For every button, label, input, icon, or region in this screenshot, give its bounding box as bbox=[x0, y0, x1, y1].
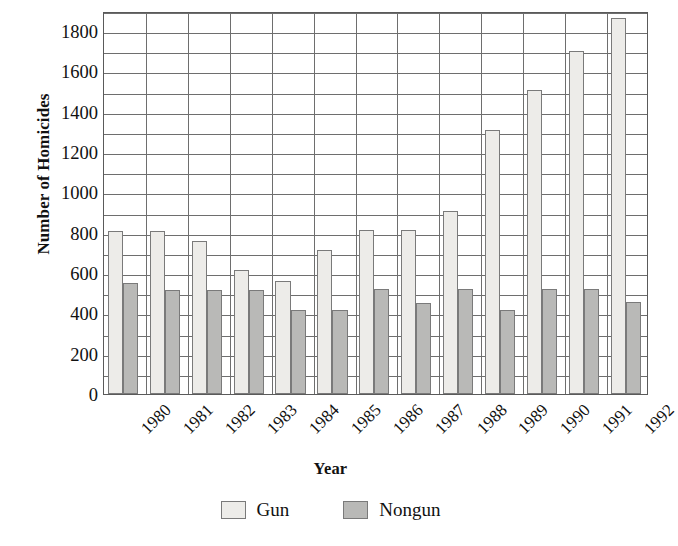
bar-gun-1981 bbox=[150, 231, 165, 394]
legend-entry-nongun: Nongun bbox=[343, 500, 440, 519]
x-tick-label-1984: 1984 bbox=[306, 401, 342, 437]
bar-gun-1992 bbox=[611, 18, 626, 394]
x-axis-tick-labels: 1980198119821983198419851986198719881989… bbox=[103, 395, 648, 453]
bar-nongun-1988 bbox=[458, 289, 473, 394]
bar-nongun-1985 bbox=[332, 310, 347, 394]
bar-nongun-1989 bbox=[500, 310, 515, 394]
bar-gun-1983 bbox=[234, 270, 249, 394]
bar-group-1985 bbox=[314, 13, 356, 394]
bar-nongun-1984 bbox=[291, 310, 306, 394]
bar-group-1983 bbox=[230, 13, 272, 394]
bar-nongun-1983 bbox=[249, 290, 264, 394]
bar-nongun-1982 bbox=[207, 290, 222, 394]
x-axis-title: Year bbox=[0, 459, 661, 479]
bar-nongun-1990 bbox=[542, 289, 557, 394]
y-tick-label: 1200 bbox=[18, 144, 98, 163]
bar-nongun-1987 bbox=[416, 303, 431, 394]
bar-group-1980 bbox=[104, 13, 146, 394]
y-tick-label: 1000 bbox=[18, 184, 98, 203]
bar-group-1982 bbox=[188, 13, 230, 394]
y-tick-label: 800 bbox=[18, 224, 98, 243]
x-tick-label-1986: 1986 bbox=[390, 401, 426, 437]
bar-group-1992 bbox=[607, 13, 649, 394]
bar-nongun-1992 bbox=[626, 302, 641, 394]
y-tick-label: 200 bbox=[18, 345, 98, 364]
y-axis-tick-labels: 020040060080010001200140016001800 bbox=[18, 12, 98, 395]
x-tick-label-1991: 1991 bbox=[599, 401, 635, 437]
x-tick-label-1983: 1983 bbox=[264, 401, 300, 437]
bar-nongun-1991 bbox=[584, 289, 599, 394]
bar-gun-1991 bbox=[569, 51, 584, 394]
bar-group-1984 bbox=[272, 13, 314, 394]
bar-gun-1987 bbox=[401, 230, 416, 394]
x-tick-label-1989: 1989 bbox=[515, 401, 551, 437]
bar-gun-1982 bbox=[192, 241, 207, 394]
bar-group-1989 bbox=[481, 13, 523, 394]
bar-nongun-1980 bbox=[123, 283, 138, 394]
bar-nongun-1981 bbox=[165, 290, 180, 394]
bar-gun-1980 bbox=[108, 231, 123, 394]
x-tick-label-1981: 1981 bbox=[180, 401, 216, 437]
legend-label-gun: Gun bbox=[257, 500, 290, 519]
x-tick-label-1992: 1992 bbox=[641, 401, 677, 437]
legend-swatch-gun bbox=[221, 501, 246, 519]
bar-group-1988 bbox=[439, 13, 481, 394]
plot-area bbox=[103, 12, 648, 395]
bar-gun-1989 bbox=[485, 130, 500, 394]
y-tick-label: 1800 bbox=[18, 23, 98, 42]
x-tick-label-1987: 1987 bbox=[432, 401, 468, 437]
chart-legend: GunNongun bbox=[0, 500, 661, 519]
legend-swatch-nongun bbox=[343, 501, 368, 519]
bar-group-1987 bbox=[397, 13, 439, 394]
x-tick-label-1985: 1985 bbox=[348, 401, 384, 437]
y-tick-label: 0 bbox=[18, 386, 98, 405]
bar-group-1986 bbox=[356, 13, 398, 394]
x-tick-label-1990: 1990 bbox=[557, 401, 593, 437]
bar-gun-1984 bbox=[275, 281, 290, 394]
y-tick-label: 400 bbox=[18, 305, 98, 324]
bar-nongun-1986 bbox=[374, 289, 389, 394]
legend-entry-gun: Gun bbox=[221, 500, 290, 519]
bar-group-1981 bbox=[146, 13, 188, 394]
bar-gun-1985 bbox=[317, 250, 332, 394]
y-tick-label: 1600 bbox=[18, 63, 98, 82]
x-tick-label-1982: 1982 bbox=[222, 401, 258, 437]
y-tick-label: 600 bbox=[18, 265, 98, 284]
bar-gun-1990 bbox=[527, 90, 542, 394]
legend-label-nongun: Nongun bbox=[379, 500, 440, 519]
bar-gun-1986 bbox=[359, 230, 374, 394]
bars-layer bbox=[104, 13, 647, 394]
bar-gun-1988 bbox=[443, 211, 458, 394]
bar-group-1990 bbox=[523, 13, 565, 394]
y-tick-label: 1400 bbox=[18, 104, 98, 123]
bar-group-1991 bbox=[565, 13, 607, 394]
x-tick-label-1988: 1988 bbox=[473, 401, 509, 437]
x-tick-label-1980: 1980 bbox=[138, 401, 174, 437]
